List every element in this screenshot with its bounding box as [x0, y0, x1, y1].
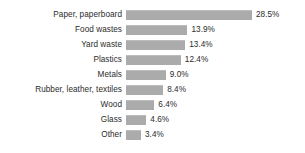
bar-track: 13.4% [122, 37, 305, 52]
bar-track: 6.4% [122, 97, 305, 112]
bar-row: Yard waste13.4% [0, 37, 305, 52]
bar [126, 55, 181, 65]
bar-row: Plastics12.4% [0, 52, 305, 67]
category-label: Metals [0, 70, 122, 80]
bar-track: 28.5% [122, 7, 305, 22]
bar-row: Other3.4% [0, 127, 305, 142]
value-label: 4.6% [150, 115, 169, 125]
bar-track: 3.4% [122, 127, 305, 142]
category-label: Glass [0, 115, 122, 125]
bar [126, 25, 187, 35]
value-label: 8.4% [167, 85, 186, 95]
bar-track: 4.6% [122, 112, 305, 127]
bar [126, 40, 185, 50]
bar-row: Wood6.4% [0, 97, 305, 112]
value-label: 9.0% [170, 70, 189, 80]
value-label: 3.4% [145, 130, 164, 140]
bar [126, 70, 166, 80]
category-label: Food wastes [0, 25, 122, 35]
horizontal-bar-chart: Paper, paperboard28.5%Food wastes13.9%Ya… [0, 0, 305, 153]
bar-track: 13.9% [122, 22, 305, 37]
category-label: Other [0, 130, 122, 140]
category-label: Wood [0, 100, 122, 110]
bar-track: 8.4% [122, 82, 305, 97]
bar [126, 100, 154, 110]
bar [126, 10, 252, 20]
value-label: 12.4% [185, 55, 208, 65]
category-label: Yard waste [0, 40, 122, 50]
bar [126, 85, 163, 95]
bar [126, 130, 141, 140]
bar-track: 12.4% [122, 52, 305, 67]
value-label: 13.9% [191, 25, 214, 35]
bar-row: Paper, paperboard28.5% [0, 7, 305, 22]
category-label: Rubber, leather, textiles [0, 85, 122, 95]
value-label: 28.5% [256, 10, 279, 20]
value-label: 6.4% [158, 100, 177, 110]
bar-row: Glass4.6% [0, 112, 305, 127]
category-label: Paper, paperboard [0, 10, 122, 20]
value-label: 13.4% [189, 40, 212, 50]
bar-row: Metals9.0% [0, 67, 305, 82]
bar-row: Rubber, leather, textiles8.4% [0, 82, 305, 97]
category-label: Plastics [0, 55, 122, 65]
bar [126, 115, 146, 125]
bar-track: 9.0% [122, 67, 305, 82]
bar-row: Food wastes13.9% [0, 22, 305, 37]
